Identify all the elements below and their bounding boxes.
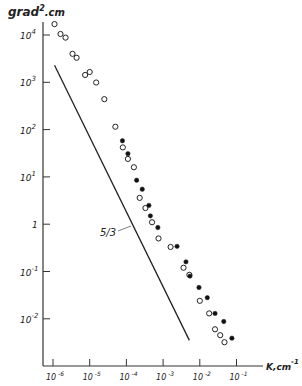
filled-data-point bbox=[184, 260, 188, 264]
slope-label-leader bbox=[118, 226, 131, 231]
open-data-point bbox=[125, 156, 130, 161]
open-data-point bbox=[212, 327, 217, 332]
y-tick-label: 1 bbox=[32, 220, 38, 230]
open-data-point bbox=[197, 298, 202, 303]
open-data-point bbox=[52, 21, 57, 26]
x-tick-label: 10 -1 bbox=[230, 370, 248, 382]
filled-data-point bbox=[147, 203, 151, 207]
open-data-point bbox=[58, 31, 63, 36]
open-data-point bbox=[156, 236, 161, 241]
filled-data-point bbox=[156, 225, 160, 229]
y-tick-label: 10-1 bbox=[20, 265, 38, 278]
y-axis-title: grad2.cm bbox=[8, 4, 65, 19]
open-data-point bbox=[70, 51, 75, 56]
open-data-point bbox=[168, 244, 173, 249]
data-points bbox=[52, 21, 234, 344]
x-tick-label: 10 -2 bbox=[193, 370, 211, 382]
filled-data-point bbox=[175, 244, 179, 248]
filled-data-point bbox=[222, 319, 226, 323]
y-tick-label: 102 bbox=[20, 123, 36, 136]
y-tick-label: 103 bbox=[20, 75, 36, 88]
y-tick-label: 104 bbox=[20, 28, 36, 41]
filled-data-point bbox=[140, 187, 144, 191]
filled-data-point bbox=[213, 311, 217, 315]
x-tick-label: 10 -6 bbox=[46, 370, 64, 382]
x-axis-title: K,cm-1 bbox=[266, 358, 299, 372]
open-data-point bbox=[113, 124, 118, 129]
open-data-point bbox=[207, 311, 212, 316]
filled-data-point bbox=[197, 285, 201, 289]
x-tick-label: 10 -4 bbox=[119, 370, 137, 382]
x-tick-label: 10 -5 bbox=[83, 370, 101, 382]
x-axis-ticks: 10 -610 -510 -410 -310 -210 -1 bbox=[46, 359, 248, 382]
open-data-point bbox=[222, 340, 227, 345]
y-tick-label: 10-2 bbox=[20, 312, 39, 325]
open-data-point bbox=[102, 97, 107, 102]
open-data-point bbox=[94, 80, 99, 85]
filled-data-point bbox=[120, 139, 124, 143]
slope-label: 5/3 bbox=[100, 227, 116, 238]
open-data-point bbox=[218, 333, 223, 338]
y-tick-label: 101 bbox=[20, 170, 36, 183]
open-data-point bbox=[131, 165, 136, 170]
x-tick-label: 10 -3 bbox=[156, 370, 174, 382]
open-data-point bbox=[181, 265, 186, 270]
open-data-point bbox=[87, 69, 92, 74]
open-data-point bbox=[63, 35, 68, 40]
log-log-spectrum-chart: grad2.cm 104103102101110-110-2 10 -610 -… bbox=[0, 0, 302, 386]
filled-data-point bbox=[148, 214, 152, 218]
filled-data-point bbox=[205, 295, 209, 299]
y-axis-ticks: 104103102101110-110-2 bbox=[20, 28, 50, 325]
filled-data-point bbox=[230, 336, 234, 340]
slope-reference-line bbox=[55, 65, 190, 340]
filled-data-point bbox=[126, 151, 130, 155]
filled-data-point bbox=[134, 178, 138, 182]
open-data-point bbox=[137, 195, 142, 200]
filled-data-point bbox=[188, 274, 192, 278]
open-data-point bbox=[149, 220, 154, 225]
open-data-point bbox=[120, 145, 125, 150]
open-data-point bbox=[74, 55, 79, 60]
